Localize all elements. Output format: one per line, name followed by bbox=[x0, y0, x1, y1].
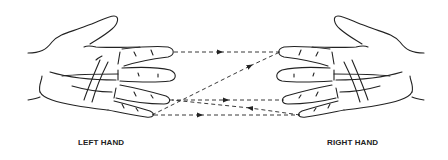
right-hand-drawing bbox=[277, 16, 424, 117]
connector-pinky-to-ring-tail bbox=[172, 100, 250, 108]
left-hand-drawing bbox=[28, 16, 175, 117]
connector-pinky-to-index bbox=[152, 66, 250, 115]
right-hand-label: RIGHT HAND bbox=[327, 138, 378, 147]
connector-pinky-to-index-tail bbox=[250, 52, 280, 66]
connector-pinky-to-ring bbox=[250, 108, 300, 115]
left-hand-label: LEFT HAND bbox=[78, 138, 124, 147]
hands-diagram bbox=[0, 0, 448, 160]
